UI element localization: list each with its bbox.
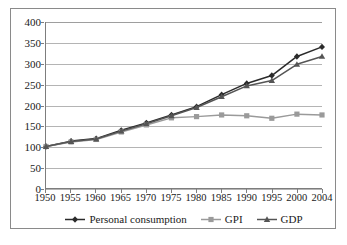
- y-axis-tick: [41, 64, 44, 65]
- y-axis-tick: [41, 168, 44, 169]
- x-axis-tick-label: 1955: [60, 193, 81, 204]
- series-personal-consumption: [43, 44, 325, 150]
- legend-item-label: Personal consumption: [89, 214, 186, 225]
- y-axis-tick-label: 100: [25, 142, 42, 153]
- x-axis-tick-label: 2000: [286, 193, 307, 204]
- x-axis-tick-label: 1985: [211, 193, 232, 204]
- y-axis-tick-label: 400: [25, 17, 42, 28]
- chart-legend: Personal consumptionGPIGDP: [45, 211, 322, 227]
- legend-item[interactable]: GDP: [256, 214, 303, 225]
- y-axis-tick-label: 50: [30, 163, 41, 174]
- y-axis-labels: 050100150200250300350400: [0, 22, 41, 189]
- y-axis-tick-label: 150: [25, 121, 42, 132]
- series-line: [46, 56, 322, 146]
- x-axis-tick-label: 1975: [160, 193, 181, 204]
- data-point-marker: [319, 112, 324, 117]
- data-point-marker: [269, 116, 274, 121]
- series-layer: [46, 22, 322, 188]
- x-axis-tick-label: 1995: [261, 193, 282, 204]
- x-axis-tick-label: 2004: [312, 193, 333, 204]
- legend-item[interactable]: Personal consumption: [64, 214, 186, 225]
- data-point-marker: [219, 112, 224, 117]
- series-line: [46, 47, 322, 147]
- legend-item-label: GPI: [225, 214, 243, 225]
- data-point-marker: [244, 113, 249, 118]
- y-axis-tick: [41, 189, 44, 190]
- x-axis-tick-label: 1965: [110, 193, 131, 204]
- y-axis-tick: [41, 126, 44, 127]
- chart-figure: 050100150200250300350400 195019551960196…: [0, 0, 347, 245]
- series-gpi: [43, 112, 324, 150]
- y-axis-tick-label: 350: [25, 37, 42, 48]
- plot-area: [45, 22, 322, 189]
- x-axis-tick-label: 1950: [35, 193, 56, 204]
- chart-svg: [46, 22, 322, 188]
- series-line: [46, 114, 322, 146]
- data-point-marker: [294, 112, 299, 117]
- x-axis-tick-label: 1990: [236, 193, 257, 204]
- x-axis-tick-label: 1980: [186, 193, 207, 204]
- legend-marker-icon: [200, 214, 222, 225]
- legend-item[interactable]: GPI: [200, 214, 243, 225]
- legend-item-label: GDP: [281, 214, 303, 225]
- x-axis-tick-label: 1970: [135, 193, 156, 204]
- data-point-marker: [208, 216, 213, 221]
- data-point-marker: [72, 216, 78, 222]
- data-point-marker: [194, 114, 199, 119]
- legend-marker-icon: [256, 214, 278, 225]
- y-axis-tick: [41, 22, 44, 23]
- y-axis-tick: [41, 85, 44, 86]
- y-axis-tick: [41, 106, 44, 107]
- y-axis-tick-label: 300: [25, 58, 42, 69]
- x-axis-labels: 1950195519601965197019751980198519901995…: [45, 193, 322, 209]
- y-axis-tick-label: 200: [25, 100, 42, 111]
- y-axis-tick: [41, 43, 44, 44]
- legend-marker-icon: [64, 214, 86, 225]
- x-axis-tick-label: 1960: [85, 193, 106, 204]
- data-point-marker: [269, 77, 275, 83]
- y-axis-tick-label: 250: [25, 79, 42, 90]
